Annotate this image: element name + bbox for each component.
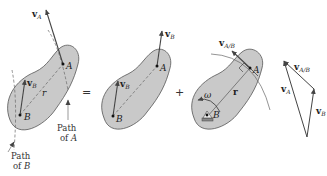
path-b-caption-line2: of B (13, 161, 30, 171)
path-b-caption-line1: Path (11, 151, 31, 161)
velocity-b-at-a-label: vB (164, 29, 175, 40)
vector-b-label: vB (315, 106, 326, 117)
vector-b-arrow (307, 89, 314, 137)
vector-a-label: vA (280, 84, 291, 95)
plus-sign: + (175, 86, 184, 99)
omega-label: ω (204, 90, 212, 100)
point-a-label: A (252, 65, 260, 75)
point-b-dot (112, 115, 115, 118)
point-a-label: A (65, 61, 73, 71)
vector-a-relative-b-label: vA/B (293, 62, 311, 73)
panel-translation: A B vB vB (102, 29, 176, 129)
point-a-dot (62, 63, 65, 66)
point-b-dot (206, 114, 209, 117)
relative-velocity-diagram: A B r vA vB Path of A Path of B = A B vB… (0, 0, 327, 176)
panel-absolute-motion: A B r vA vB Path of A Path of B (8, 9, 79, 171)
panel-rotation: ω A B r vA/B (192, 38, 270, 129)
path-a-caption-line1: Path (57, 123, 77, 133)
velocity-a-label: vA (31, 9, 42, 20)
point-a-dot (156, 65, 159, 68)
velocity-vector-triangle: vA/B vA vB (280, 61, 326, 137)
point-b-label: B (23, 112, 31, 122)
point-a-dot (249, 67, 252, 70)
velocity-a-relative-b-label: vA/B (218, 38, 236, 49)
radius-label: r (233, 87, 238, 97)
point-b-label: B (212, 110, 220, 120)
point-a-label: A (159, 63, 167, 73)
equals-sign: = (82, 86, 91, 99)
radius-label: r (42, 88, 47, 98)
point-b-label: B (115, 114, 123, 124)
point-b-dot (19, 114, 22, 117)
path-a-caption-line2: of A (60, 133, 77, 143)
rigid-body-shape (192, 49, 263, 129)
